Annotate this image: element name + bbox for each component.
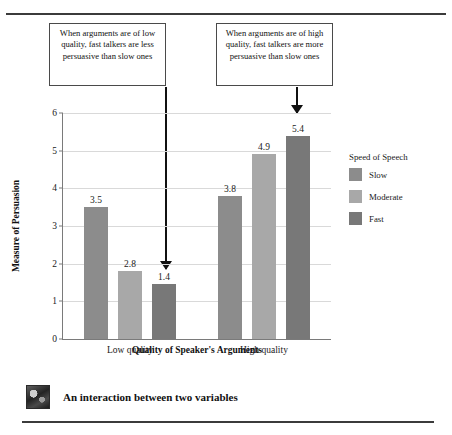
legend-label-moderate: Moderate: [369, 192, 403, 202]
y-axis-tick-label: 1: [52, 296, 57, 306]
legend-item-slow: Slow: [349, 168, 449, 181]
bar-moderate-low: 2.8: [118, 271, 142, 339]
low-quality-callout: When arguments are of low quality, fast …: [49, 23, 166, 86]
legend-swatch-fast: [349, 212, 362, 225]
x-axis-title: Quality of Speaker's Arguments: [63, 345, 331, 355]
y-axis-tick-label: 3: [52, 221, 57, 231]
legend-title: Speed of Speech: [349, 152, 449, 162]
high-quality-callout: When arguments are of high quality, fast…: [216, 23, 333, 86]
y-axis-tick-mark: [59, 150, 63, 151]
bar-value-label: 4.9: [258, 142, 270, 152]
bar-fast-low: 1.4: [152, 284, 176, 339]
plot-area: 01234563.52.81.4Low quality3.84.95.4High…: [63, 113, 331, 339]
bar-value-label: 3.8: [224, 184, 236, 194]
legend: Speed of Speech Slow Moderate Fast: [349, 152, 449, 234]
legend-item-fast: Fast: [349, 212, 449, 225]
caption-text: An interaction between two variables: [63, 391, 238, 403]
legend-item-moderate: Moderate: [349, 190, 449, 203]
bar-value-label: 2.8: [124, 259, 136, 269]
legend-label-slow: Slow: [369, 170, 387, 180]
bar-slow-low: 3.5: [84, 207, 108, 339]
legend-label-fast: Fast: [369, 214, 384, 224]
legend-swatch-slow: [349, 168, 362, 181]
x-axis-line: [62, 339, 331, 340]
bar-value-label: 1.4: [158, 272, 170, 282]
bar-fast-high: 5.4: [286, 136, 310, 339]
y-axis-tick-mark: [59, 113, 63, 114]
y-axis-tick-mark: [59, 263, 63, 264]
y-axis-title: Measure of Persuasion: [11, 180, 21, 272]
y-axis-tick-label: 2: [52, 259, 57, 269]
y-axis-tick-label: 6: [52, 108, 57, 118]
bar-slow-high: 3.8: [218, 196, 242, 339]
bar-moderate-high: 4.9: [252, 154, 276, 339]
bar-value-label: 5.4: [292, 124, 304, 134]
figure-caption: An interaction between two variables: [26, 385, 238, 409]
photo-thumbnail-icon: [26, 385, 50, 409]
y-axis-tick-mark: [59, 339, 63, 340]
gridline: [63, 113, 331, 114]
y-axis-tick-label: 4: [52, 183, 57, 193]
page-rule-bottom: [22, 421, 434, 423]
legend-swatch-moderate: [349, 190, 362, 203]
y-axis-tick-label: 0: [52, 334, 57, 344]
y-axis-tick-label: 5: [52, 146, 57, 156]
y-axis-tick-mark: [59, 301, 63, 302]
y-axis-tick-mark: [59, 226, 63, 227]
figure-page: When arguments are of low quality, fast …: [0, 0, 452, 435]
y-axis-tick-mark: [59, 188, 63, 189]
page-rule-top: [6, 13, 446, 15]
bar-value-label: 3.5: [90, 195, 102, 205]
